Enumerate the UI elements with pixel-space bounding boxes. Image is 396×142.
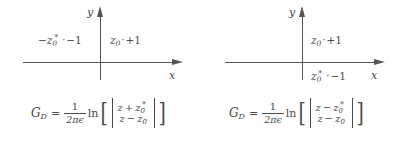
abs-bar-left [112,98,113,128]
prefactor-denominator: 2πϵ [262,115,284,125]
charge-dot-icon: · [62,34,65,45]
formula-lhs: GD [229,106,245,120]
formula-lhs-symbol: G [229,106,239,120]
formula-lhs-symbol: G [31,106,41,120]
formula-log: ln [88,107,99,120]
charge-label-source: z0·+1 [311,35,342,46]
charge-subscript: 0 [317,39,322,48]
num-right-star: * [142,100,146,109]
charge-symbol: −z [38,34,52,46]
num-left-term: z [118,102,123,113]
argument-numerator: z−z0* [313,102,350,113]
num-operator: − [323,102,331,113]
formula-argument-fraction: z+z0* z−z0 [115,98,152,128]
y-axis-arrow-icon [97,6,103,17]
bracket-close: ] [158,103,165,123]
den-right-subscript: 0 [142,118,146,126]
formula-lhs-subscript: D [41,112,47,121]
charge-label-image: z0*·−1 [311,71,346,82]
num-operator: + [125,102,133,113]
den-operator: − [325,113,333,124]
charge-value: −1 [66,34,81,46]
charge-dot-icon: · [121,34,124,45]
charge-dot-icon: · [322,34,325,45]
charge-symbol: z [311,70,317,82]
prefactor-numerator: 1 [268,101,278,112]
formula-lhs: GD [31,106,47,120]
argument-numerator: z+z0* [115,102,152,113]
figure-container: x y −z0*·−1 z0·+1 GD = 1 2πϵ ln [ [0,0,396,142]
formula-prefactor: 1 2πϵ [64,101,86,125]
absolute-value-group: z−z0* z−z0 [308,98,355,128]
num-left-term: z [316,102,321,113]
abs-bar-right [352,98,353,128]
formula-lhs-subscript: D [239,112,245,121]
formula-argument-fraction: z−z0* z−z0 [313,98,350,128]
diagram-panel-right: x y z0·+1 z0*·−1 GD = 1 2πϵ ln [ [198,0,396,142]
charge-symbol: z [311,34,317,46]
diagram-panel-left: x y −z0*·−1 z0·+1 GD = 1 2πϵ ln [ [0,0,198,142]
x-axis-arrow-icon [172,59,183,65]
greens-function-formula: GD = 1 2πϵ ln [ z−z0* z−z0 ] [198,98,396,128]
charge-subscript: 0 [116,39,121,48]
bracket-close: ] [356,103,363,123]
den-right-subscript: 0 [340,118,344,126]
charge-star: * [54,33,58,42]
y-axis-line [100,14,101,80]
charge-dot-icon: · [326,70,329,81]
y-axis-arrow-icon [299,6,305,17]
prefactor-numerator: 1 [70,101,80,112]
charge-value: +1 [126,34,141,46]
x-axis-label: x [169,70,175,81]
prefactor-denominator: 2πϵ [64,115,86,125]
absolute-value-group: z+z0* z−z0 [110,98,157,128]
charge-symbol: z [110,34,116,46]
x-axis-line [23,62,173,63]
charge-value: −1 [331,70,346,82]
y-axis-line [302,14,303,80]
formula-prefactor: 1 2πϵ [262,101,284,125]
bracket-open: [ [101,103,108,123]
x-axis-label: x [371,70,377,81]
formula-equals: = [51,107,60,120]
den-left-term: z [120,113,125,124]
charge-value: +1 [327,34,342,46]
charge-label-source: z0·+1 [110,35,141,46]
bracket-open: [ [299,103,306,123]
formula-equals: = [249,107,258,120]
y-axis-label: y [289,7,295,18]
den-operator: − [127,113,135,124]
x-axis-line [225,62,375,63]
den-left-term: z [318,113,323,124]
x-axis-arrow-icon [374,59,385,65]
y-axis-label: y [87,7,93,18]
formula-log: ln [286,107,297,120]
greens-function-formula: GD = 1 2πϵ ln [ z+z0* z−z0 ] [0,98,198,128]
num-right-star: * [340,100,344,109]
abs-bar-left [310,98,311,128]
charge-label-image: −z0*·−1 [38,35,82,46]
charge-star: * [318,69,322,78]
abs-bar-right [154,98,155,128]
